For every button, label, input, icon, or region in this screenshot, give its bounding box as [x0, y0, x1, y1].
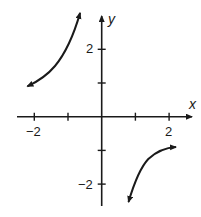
curve-left-branch	[27, 13, 80, 87]
y-tick-label-2: 2	[86, 41, 93, 56]
x-tick-label-neg2: −2	[26, 124, 41, 139]
curve-right-branch-line	[129, 147, 177, 202]
graph-figure: x y −2 2 2 −2	[0, 0, 201, 217]
x-tick-label-2: 2	[165, 124, 172, 139]
y-tick-label-neg2: −2	[78, 177, 93, 192]
y-axis-label: y	[107, 11, 116, 27]
x-axis-label: x	[188, 96, 197, 112]
